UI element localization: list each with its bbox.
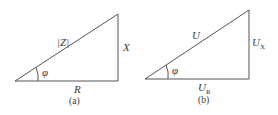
angle-arc-a: [36, 67, 38, 81]
angle-label-b: φ: [172, 64, 178, 76]
voltage-triangle: φ U U X U R (b): [145, 10, 265, 106]
svg-text:X: X: [260, 43, 265, 51]
hypotenuse-label-b: U: [192, 29, 201, 41]
horizontal-label-b: U R: [198, 81, 211, 96]
triangle-b-edges: [145, 10, 249, 79]
angle-label-a: φ: [42, 66, 48, 78]
angle-arc-b: [166, 65, 168, 79]
horizontal-label-a: R: [73, 83, 81, 95]
vertical-label-b: U X: [252, 36, 265, 51]
caption-b: (b): [198, 95, 209, 106]
triangle-diagram: φ |Z| X R (a) φ U U X U R (b): [0, 0, 278, 115]
hypotenuse-label-a: |Z|: [57, 36, 69, 48]
impedance-triangle: φ |Z| X R (a): [15, 14, 131, 107]
vertical-label-a: X: [122, 41, 131, 53]
caption-a: (a): [69, 96, 80, 107]
